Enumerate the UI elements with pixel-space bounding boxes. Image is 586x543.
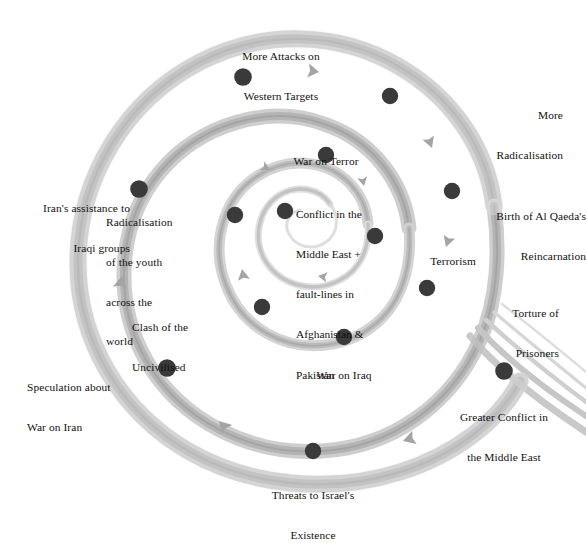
label-line: Threats to Israel's xyxy=(243,489,383,502)
label-line: the Middle East xyxy=(434,451,574,464)
node-dot-more-radicalisation[interactable] xyxy=(382,88,398,104)
label-terrorism: Terrorism xyxy=(386,229,476,295)
label-war-on-terror: War on Terror xyxy=(256,129,396,195)
label-line: Torture of xyxy=(439,307,559,320)
arrow-mid-left-icon xyxy=(236,268,250,281)
node-dot-radicalisation-of-the-youth[interactable] xyxy=(227,207,243,223)
center-line-1: Conflict in the xyxy=(296,208,363,221)
label-line: Existence xyxy=(243,529,383,542)
label-greater-conflict-in-the-middle-east: Greater Conflict in the Middle East xyxy=(434,385,574,491)
center-line-3: fault-lines in xyxy=(296,288,363,301)
label-line: Reincarnation xyxy=(464,250,586,263)
label-torture-of-prisoners: Torture of Prisoners xyxy=(439,281,559,387)
label-line: More xyxy=(403,109,563,122)
label-speculation-about-war-on-iran: Speculation about War on Iran xyxy=(27,355,155,461)
label-line: Radicalisation xyxy=(106,216,226,229)
label-line: Birth of Al Qaeda's xyxy=(464,210,586,223)
label-line: Radicalisation xyxy=(403,149,563,162)
label-line: Clash of the xyxy=(132,321,250,334)
node-dot-conflict-middle-east[interactable] xyxy=(277,203,293,219)
label-more-radicalisation: More Radicalisation xyxy=(403,83,563,189)
label-line: Greater Conflict in xyxy=(434,411,574,424)
label-line: of the youth xyxy=(106,256,226,269)
label-line: War on Iraq xyxy=(284,369,404,382)
node-dot-threats-to-israels-existence[interactable] xyxy=(305,443,321,459)
label-line: War on Terror xyxy=(256,155,396,168)
node-dot-clash-of-the-uncivilised[interactable] xyxy=(254,299,270,315)
center-line-4: Afghanistan & xyxy=(296,328,363,341)
label-line: More Attacks on xyxy=(188,50,374,63)
label-birth-of-al-qaedas-reincarnation: Birth of Al Qaeda's Reincarnation xyxy=(464,184,586,290)
label-more-attacks-on-western-targets: More Attacks on Western Targets xyxy=(188,24,374,130)
label-line: Speculation about xyxy=(27,381,155,394)
node-dot-terrorism[interactable] xyxy=(367,228,383,244)
label-line: Western Targets xyxy=(188,90,374,103)
label-line: War on Iran xyxy=(27,421,155,434)
label-war-on-iraq: War on Iraq xyxy=(284,343,404,409)
label-line: Terrorism xyxy=(386,255,476,268)
label-threats-to-israels-existence: Threats to Israel's Existence xyxy=(243,463,383,543)
label-line: Prisoners xyxy=(439,347,559,360)
center-line-2: Middle East + xyxy=(296,248,363,261)
